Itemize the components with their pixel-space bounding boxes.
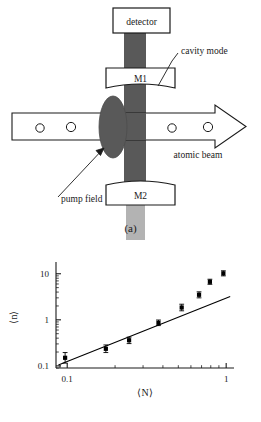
data-point-marker bbox=[180, 305, 184, 309]
data-point-marker bbox=[127, 338, 131, 342]
panel-b-chart: 0.1110 0.11 ⟨n⟩ ⟨N⟩ (b) bbox=[0, 240, 261, 422]
y-tick-label: 1 bbox=[45, 315, 50, 325]
atom-circle bbox=[203, 122, 212, 131]
mirror-m2-label: M2 bbox=[134, 191, 147, 201]
x-tick-label: 1 bbox=[224, 374, 229, 384]
y-axis-ticks bbox=[56, 274, 61, 368]
data-point-marker bbox=[208, 280, 212, 284]
data-points bbox=[63, 271, 226, 363]
x-axis-title: ⟨N⟩ bbox=[137, 387, 152, 398]
figure-container: detector M1 M2 cavity mode pump field at… bbox=[0, 0, 261, 422]
schematic-svg: detector M1 M2 cavity mode pump field at… bbox=[0, 0, 261, 240]
data-point-marker bbox=[197, 293, 201, 297]
atom-circle bbox=[66, 122, 75, 131]
pump-field-leader-line bbox=[58, 148, 104, 197]
cavity-mode-label: cavity mode bbox=[181, 46, 228, 56]
chart-svg: 0.1110 0.11 ⟨n⟩ ⟨N⟩ bbox=[0, 240, 261, 422]
detector-label: detector bbox=[126, 17, 157, 27]
caption-a: (a) bbox=[0, 222, 261, 234]
data-point-marker bbox=[104, 347, 108, 351]
pump-field-label: pump field bbox=[61, 194, 103, 204]
x-axis-tick-labels: 0.11 bbox=[62, 374, 229, 384]
pump-field-arrowhead bbox=[96, 148, 104, 156]
x-axis-ticks bbox=[60, 363, 226, 368]
atom-circle bbox=[36, 124, 44, 132]
atom-circle bbox=[168, 124, 176, 132]
data-point-marker bbox=[221, 271, 225, 275]
x-tick-label: 0.1 bbox=[62, 374, 73, 384]
data-point-marker bbox=[156, 321, 160, 325]
mirror-m1-label: M1 bbox=[134, 74, 147, 84]
y-tick-label: 0.1 bbox=[38, 361, 49, 371]
fit-line bbox=[58, 297, 230, 365]
data-point-marker bbox=[63, 356, 67, 360]
y-tick-label: 10 bbox=[40, 269, 50, 279]
fit-line-segment bbox=[58, 297, 230, 365]
y-axis-title: ⟨n⟩ bbox=[8, 311, 19, 324]
panel-a-schematic: detector M1 M2 cavity mode pump field at… bbox=[0, 0, 261, 240]
y-axis-tick-labels: 0.1110 bbox=[38, 269, 50, 371]
atomic-beam-label: atomic beam bbox=[174, 150, 223, 160]
